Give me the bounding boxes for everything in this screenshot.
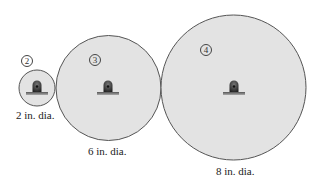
diagram-canvas: 2 3 4 2 in. dia. 6 in. dia. 8 in. dia. xyxy=(0,0,322,185)
wheel-4-diameter-label: 8 in. dia. xyxy=(216,166,255,177)
wheel-2 xyxy=(19,70,55,106)
wheels-drawing xyxy=(0,0,322,185)
wheel-3-diameter-label: 6 in. dia. xyxy=(88,146,127,157)
wheel-3 xyxy=(56,36,161,141)
wheel-2-diameter-label: 2 in. dia. xyxy=(16,110,55,121)
wheel-4 xyxy=(161,15,306,160)
wheel-tag-4: 4 xyxy=(200,44,212,56)
wheel-tag-2: 2 xyxy=(21,55,33,67)
wheel-tag-3: 3 xyxy=(89,54,101,66)
